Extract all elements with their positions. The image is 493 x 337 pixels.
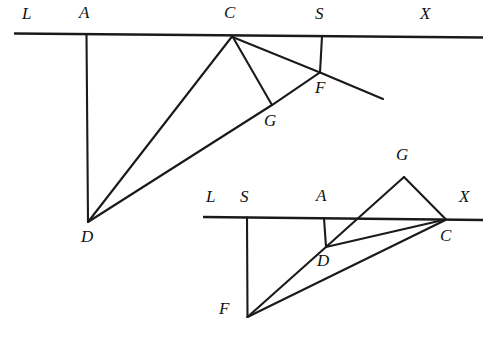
upper-label-S: S — [315, 5, 324, 22]
lower-segment-G-C — [404, 177, 446, 219]
lower-label-S: S — [240, 188, 249, 205]
lower-segment-F-C — [248, 220, 446, 317]
upper-label-D: D — [81, 228, 93, 245]
lower-label-X: X — [459, 188, 469, 205]
lower-segment-D-C — [326, 220, 446, 248]
lower-label-F: F — [219, 300, 229, 317]
geometry-figure-canvas — [0, 0, 493, 337]
lower-label-C: C — [440, 227, 451, 244]
upper-label-L: L — [22, 5, 31, 22]
upper-segment-C-G — [233, 37, 273, 106]
upper-ray-D-G-F-extended — [88, 73, 383, 223]
lower-label-D: D — [317, 252, 329, 269]
lower-label-G: G — [396, 146, 408, 163]
upper-segment-C-F — [233, 37, 321, 73]
lower-segment-S-F — [247, 218, 248, 318]
upper-label-A: A — [79, 4, 89, 21]
lower-label-A: A — [316, 187, 326, 204]
upper-label-F: F — [315, 79, 325, 96]
upper-segment-S-F — [320, 37, 322, 73]
lower-label-L: L — [206, 188, 215, 205]
upper-label-X: X — [420, 5, 430, 22]
upper-baseline-LX — [14, 34, 483, 38]
upper-segment-A-D — [87, 35, 89, 223]
upper-label-C: C — [224, 4, 235, 21]
upper-label-G: G — [264, 112, 276, 129]
lower-segment-A-D — [324, 218, 326, 247]
